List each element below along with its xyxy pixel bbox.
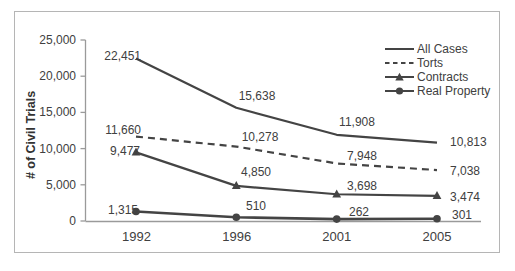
y-tick-label-20000: 20,000 xyxy=(26,69,76,83)
legend-item-all-cases: All Cases xyxy=(385,42,490,56)
data-label-torts-1996: 10,278 xyxy=(242,130,279,144)
x-tick-label-1996: 1996 xyxy=(222,229,251,244)
civil-trials-line-chart: # of Civil Trials 0 5,000 10,000 15,000 … xyxy=(0,0,515,271)
data-label-all-cases-1996: 15,638 xyxy=(239,89,276,103)
data-label-torts-2001: 7,948 xyxy=(347,149,377,163)
marker-circle-real-property xyxy=(233,214,241,222)
x-tick-label-2001: 2001 xyxy=(322,229,351,244)
series-line-torts xyxy=(136,137,437,170)
y-tick-label-10000: 10,000 xyxy=(26,142,76,156)
legend-sample-torts xyxy=(385,57,414,69)
legend-sample-contracts xyxy=(385,71,414,83)
y-tick-label-5000: 5,000 xyxy=(26,178,76,192)
data-label-contracts-1996: 4,850 xyxy=(241,165,271,179)
marker-circle-real-property xyxy=(333,215,341,223)
data-label-contracts-2005: 3,474 xyxy=(450,190,480,204)
x-tick-label-1992: 1992 xyxy=(122,229,151,244)
data-label-torts-2005: 7,038 xyxy=(450,164,480,178)
data-label-all-cases-1992: 22,451 xyxy=(104,49,141,63)
y-axis-title: # of Civil Trials xyxy=(24,91,38,179)
data-label-real-property-2005: 301 xyxy=(452,208,472,222)
data-label-all-cases-2005: 10,813 xyxy=(450,135,487,149)
data-label-contracts-2001: 3,698 xyxy=(347,179,377,193)
legend-item-real-property: Real Property xyxy=(385,84,490,98)
y-tick-label-15000: 15,000 xyxy=(26,105,76,119)
series-line-contracts xyxy=(136,152,437,195)
x-tick-label-2005: 2005 xyxy=(423,229,452,244)
legend-label-real-property: Real Property xyxy=(417,84,490,98)
legend-item-torts: Torts xyxy=(385,56,490,70)
legend-label-torts: Torts xyxy=(417,56,443,70)
y-tick-label-0: 0 xyxy=(26,214,76,228)
data-label-real-property-1992: 1,315 xyxy=(108,203,138,217)
legend-item-contracts: Contracts xyxy=(385,70,490,84)
data-label-all-cases-2001: 11,908 xyxy=(339,115,375,129)
legend-label-all-cases: All Cases xyxy=(417,42,468,56)
marker-circle-real-property xyxy=(433,215,441,223)
legend: All Cases Torts Contracts Real Property xyxy=(385,42,490,98)
legend-marker-circle xyxy=(396,87,403,94)
legend-sample-real-property xyxy=(385,85,414,97)
y-tick-label-25000: 25,000 xyxy=(26,33,76,47)
data-label-real-property-1996: 510 xyxy=(246,199,266,213)
legend-label-contracts: Contracts xyxy=(417,70,468,84)
data-label-real-property-2001: 262 xyxy=(349,205,369,219)
series-line-real-property xyxy=(136,211,437,219)
legend-sample-all-cases xyxy=(385,43,414,55)
data-label-torts-1992: 11,660 xyxy=(105,123,141,137)
data-label-contracts-1992: 9,477 xyxy=(110,144,140,158)
